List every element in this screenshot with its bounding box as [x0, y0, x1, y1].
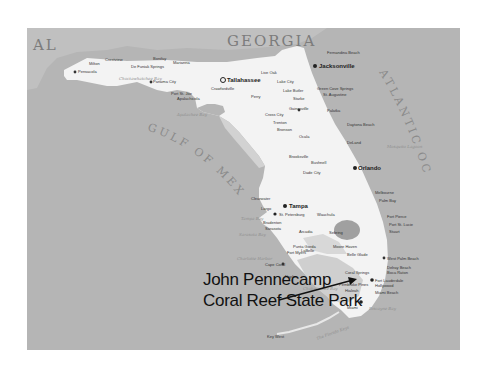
- city-label-tallahassee: Tallahassee: [227, 77, 261, 83]
- city-label: Largo: [261, 206, 272, 211]
- city-label: De Funiak Springs: [131, 64, 164, 69]
- city-label: Belle Glade: [347, 252, 368, 257]
- city-label: Wauchula: [317, 212, 335, 217]
- city-marker-icon: [370, 278, 374, 282]
- city-label-tampa: Tampa: [289, 203, 309, 209]
- city-label: Dade City: [303, 170, 321, 175]
- city-label: Lake Butler: [283, 88, 304, 93]
- city-label: Apalachicola: [177, 96, 200, 101]
- city-label: DeLand: [347, 140, 361, 145]
- city-label: Bronson: [277, 127, 292, 132]
- city-label: Moore Haven: [333, 244, 357, 249]
- city-label: Sebring: [329, 230, 343, 235]
- city-label: Fernandina Beach: [327, 50, 360, 55]
- city-label: Fort Pierce: [387, 214, 407, 219]
- city-label: Hollywood: [375, 283, 393, 288]
- city-marker-icon: [353, 166, 357, 170]
- city-label: Cape Coral: [265, 262, 285, 267]
- callout-line-1: John Pennecamp: [203, 270, 331, 290]
- city-label: Pensacola: [78, 69, 97, 74]
- city-label: Crawfordville: [211, 86, 235, 91]
- city-label: Cross City: [265, 112, 283, 117]
- city-label: Key West: [267, 334, 285, 339]
- city-marker-icon: [273, 212, 276, 215]
- bay-label: Tampa Bay: [241, 216, 264, 221]
- bay-label: Biscayne Bay: [368, 306, 397, 311]
- city-label: Perry: [251, 94, 261, 99]
- city-label: Panama City: [153, 79, 176, 84]
- city-label: Marianna: [173, 60, 190, 65]
- city-label: Bushnell: [311, 160, 326, 165]
- city-label-st-petersburg: St. Petersburg: [279, 212, 305, 217]
- city-label: Sarasota: [265, 226, 282, 231]
- city-marker-icon: [283, 204, 287, 208]
- city-label: Palatka: [327, 108, 341, 113]
- city-label: Starke: [293, 96, 305, 101]
- city-label: Coral Springs: [345, 270, 369, 275]
- city-label: Clearwater: [251, 196, 271, 201]
- city-label-jacksonville: Jacksonville: [319, 63, 355, 69]
- city-label: Stuart: [389, 229, 401, 234]
- city-label: Miami Beach: [375, 290, 398, 295]
- city-label: West Palm Beach: [387, 256, 419, 261]
- bay-label: Sarasota Bay: [239, 232, 266, 237]
- city-label: Arcadia: [299, 229, 313, 234]
- city-label: St. Augustine: [323, 92, 347, 97]
- city-label: Crestview: [105, 57, 123, 62]
- bay-label: Charlotte Harbor: [237, 256, 273, 261]
- city-label: Daytona Beach: [347, 122, 374, 127]
- city-label: Brooksville: [289, 154, 309, 159]
- city-label: Trenton: [273, 120, 287, 125]
- bay-label: Apalachee Bay: [176, 112, 208, 117]
- city-label-orlando: Orlando: [358, 165, 381, 171]
- city-label: Gainesville: [289, 106, 309, 111]
- city-label: Palm Bay: [379, 198, 396, 203]
- city-label: Boca Raton: [387, 270, 408, 275]
- city-label: Milton: [89, 61, 100, 66]
- callout-line-2: Coral Reef State Park: [203, 291, 362, 311]
- city-label: Green Cove Springs: [317, 86, 353, 91]
- city-label: Ocala: [299, 134, 310, 139]
- florida-keys-label: The Florida Keys: [316, 325, 350, 341]
- city-marker-icon: [313, 64, 317, 68]
- city-label: Port St. Lucie: [389, 222, 414, 227]
- city-label: LaBelle: [301, 248, 315, 253]
- city-label: Bonifay: [153, 56, 166, 61]
- city-label: Melbourne: [375, 190, 395, 195]
- bay-label: Mosquito Lagoon: [386, 144, 423, 149]
- city-label: Bradenton: [263, 220, 281, 225]
- city-label: Live Oak: [261, 70, 277, 75]
- alabama-label: AL: [32, 36, 58, 54]
- city-label: Lake City: [277, 79, 294, 84]
- georgia-label: GEORGIA: [227, 32, 316, 50]
